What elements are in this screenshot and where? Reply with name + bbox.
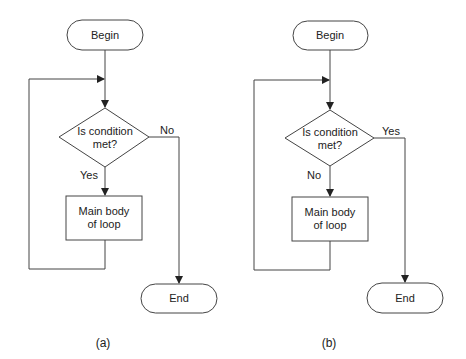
condition-label-line2: met? [93,138,117,150]
condition-label-line1: Is condition [77,125,133,137]
body-label-line2: of loop [313,219,346,231]
body-label-line1: Main body [79,205,130,217]
end-label: End [169,292,189,304]
exit-arrow [149,137,179,283]
condition-label-line2: met? [318,139,342,151]
flowchart-a: Begin Is condition met? No Yes Main body… [29,20,217,350]
right-branch-label: No [160,124,174,136]
condition-decision [285,110,374,166]
body-label-line1: Main body [305,206,356,218]
right-branch-label: Yes [382,125,400,137]
condition-label-line1: Is condition [302,126,358,138]
flowchart-b: Begin Is condition met? Yes No Main body… [254,21,443,350]
begin-label: Begin [91,29,119,41]
down-branch-label: Yes [80,169,98,181]
end-label: End [395,292,415,304]
down-branch-label: No [307,169,321,181]
exit-arrow [374,138,405,282]
flowchart-figure: Begin Is condition met? No Yes Main body… [0,0,466,359]
caption-b: (b) [322,336,337,350]
body-label-line2: of loop [87,218,120,230]
caption-a: (a) [96,336,111,350]
begin-label: Begin [316,29,344,41]
